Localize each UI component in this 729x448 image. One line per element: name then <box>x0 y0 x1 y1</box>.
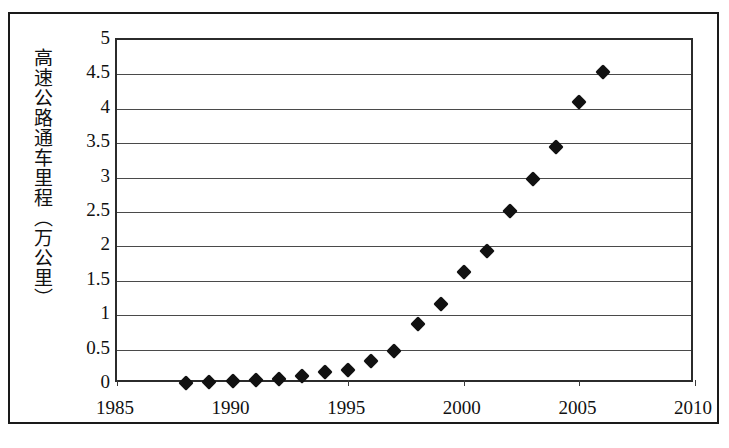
data-point <box>525 171 541 187</box>
gridline <box>117 109 691 110</box>
scatter-chart: 高速公路通车里程（万公里） 00.511.522.533.544.55 1985… <box>0 0 729 448</box>
y-axis-tick-label: 4 <box>101 97 111 116</box>
y-axis-tick-label: 1 <box>101 303 111 322</box>
data-point <box>225 373 241 389</box>
x-axis-tick <box>695 380 696 386</box>
gridline <box>117 143 691 144</box>
y-axis-title: 高速公路通车里程（万公里） <box>18 48 52 378</box>
y-axis-tick-label: 3 <box>101 166 111 185</box>
y-axis-tick-label: 1.5 <box>86 269 110 288</box>
y-axis-tick-label: 2 <box>101 234 111 253</box>
y-axis-tick-labels: 00.511.522.533.544.55 <box>48 0 110 448</box>
plot-area <box>115 38 693 382</box>
x-axis-tick <box>579 380 580 386</box>
gridline <box>117 281 691 282</box>
y-axis-tick-label: 0.5 <box>86 338 110 357</box>
y-axis-tick-label: 3.5 <box>86 131 110 150</box>
x-axis-tick <box>348 380 349 386</box>
x-axis-tick-label: 2000 <box>443 398 481 417</box>
x-axis-tick-label: 2010 <box>674 398 712 417</box>
data-point <box>502 204 518 220</box>
data-point <box>387 343 403 359</box>
gridline <box>117 315 691 316</box>
data-point <box>572 94 588 110</box>
data-point <box>271 371 287 387</box>
data-point <box>456 264 472 280</box>
data-point <box>433 296 449 312</box>
data-point <box>548 140 564 156</box>
data-point <box>364 353 380 369</box>
x-axis-tick-label: 2005 <box>558 398 596 417</box>
data-point <box>340 362 356 378</box>
x-axis-tick-label: 1990 <box>212 398 250 417</box>
gridline <box>117 350 691 351</box>
gridline <box>117 246 691 247</box>
y-axis-tick-label: 5 <box>101 28 111 47</box>
x-axis-tick <box>464 380 465 386</box>
x-axis-tick-label: 1985 <box>96 398 134 417</box>
x-axis-tick <box>117 380 118 386</box>
y-axis-tick-label: 0 <box>101 372 111 391</box>
y-axis-tick-label: 2.5 <box>86 200 110 219</box>
y-axis-tick-label: 4.5 <box>86 62 110 81</box>
data-point <box>294 369 310 385</box>
x-axis-tick-label: 1995 <box>327 398 365 417</box>
data-point <box>479 243 495 259</box>
gridline <box>117 212 691 213</box>
data-point <box>248 372 264 388</box>
gridline <box>117 178 691 179</box>
data-point <box>179 376 195 392</box>
data-point <box>202 374 218 390</box>
data-point <box>410 316 426 332</box>
data-point <box>317 365 333 381</box>
data-point <box>595 65 611 81</box>
